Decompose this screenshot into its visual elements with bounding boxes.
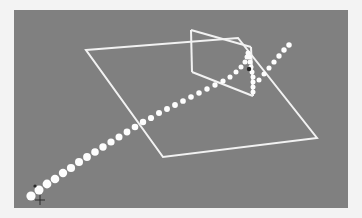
ball-marker: [51, 175, 60, 184]
ball-marker: [251, 80, 256, 85]
scene-canvas: [14, 10, 348, 208]
ball-marker: [164, 106, 170, 112]
ball-marker: [262, 72, 267, 77]
ball-marker: [59, 169, 67, 177]
ball-marker: [140, 119, 146, 125]
ball-marker: [286, 42, 292, 48]
ball-rebound-series: [257, 42, 292, 82]
ball-marker: [257, 78, 262, 83]
ball-marker: [99, 143, 106, 150]
ball-marker: [116, 134, 123, 141]
ball-marker: [248, 60, 253, 65]
ball-marker: [172, 102, 178, 108]
ball-marker: [26, 191, 35, 200]
trajectory-visualization: [0, 0, 362, 218]
ball-marker: [243, 60, 248, 65]
ball-marker: [204, 86, 209, 91]
ball-marker: [227, 74, 232, 79]
ball-marker: [43, 180, 52, 189]
net-post-left: [191, 30, 192, 72]
ball-marker: [132, 124, 139, 131]
ball-marker: [124, 129, 131, 136]
annotation-markers: [33, 67, 251, 205]
ball-marker: [251, 90, 256, 95]
ball-marker: [67, 164, 75, 172]
scene-viewport: [14, 10, 348, 208]
ball-marker: [266, 65, 271, 70]
net-top-cord: [191, 30, 251, 47]
origin-cross: [35, 195, 45, 205]
ball-marker: [251, 85, 256, 90]
ball-marker: [234, 70, 239, 75]
ball-marker: [75, 158, 83, 166]
ball-marker: [251, 75, 256, 80]
ball-marker: [247, 55, 252, 60]
ball-marker: [212, 82, 217, 87]
ball-marker: [148, 115, 154, 121]
ball-marker: [91, 148, 99, 156]
ball-marker: [276, 53, 281, 58]
ball-marker: [281, 47, 286, 52]
ball-marker: [220, 78, 225, 83]
ball-marker: [188, 94, 194, 100]
origin-point: [33, 184, 36, 187]
ball-marker: [239, 65, 244, 70]
ball-marker: [180, 98, 186, 104]
ball-marker: [156, 110, 162, 116]
ball-marker: [83, 153, 91, 161]
ball-marker: [196, 90, 202, 96]
impact-point: [247, 67, 251, 71]
ball-marker: [271, 59, 276, 64]
ball-marker: [107, 138, 114, 145]
